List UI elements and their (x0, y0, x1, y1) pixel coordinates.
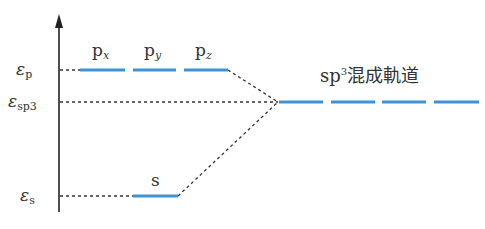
dashed-guides (60, 70, 278, 196)
sp3-hybrid-label: sp3混成軌道 (320, 67, 419, 85)
epsilon-s-label: εs (20, 187, 35, 206)
px-label: px (92, 42, 109, 61)
epsilon-sp3-label: εsp3 (8, 93, 37, 112)
pz-label: pz (195, 42, 212, 61)
s-label: s (151, 172, 160, 189)
epsilon-p-label: εp (16, 61, 32, 80)
energy-diagram-canvas (0, 0, 485, 229)
py-label: py (144, 42, 161, 61)
axis-arrow-icon (55, 14, 63, 28)
